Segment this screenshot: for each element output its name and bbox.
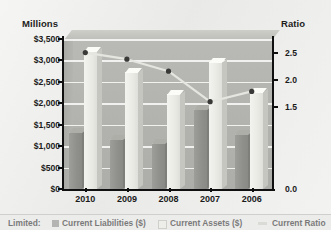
bar-side-facet	[97, 48, 102, 189]
left-tick-label: $2,500	[34, 77, 60, 87]
bar-face	[235, 134, 248, 189]
legend-label-liabilities: Current Liabilities ($)	[62, 218, 146, 228]
bar-face	[110, 139, 123, 189]
right-tick-label: 2.0	[285, 75, 297, 85]
left-axis-line	[62, 36, 64, 191]
x-tick-mark	[210, 188, 212, 192]
bar-current-assets	[84, 52, 97, 189]
right-tick-mark	[274, 52, 278, 54]
legend-swatch-ratio	[258, 222, 267, 225]
legend-label-assets: Current Assets ($)	[170, 218, 242, 228]
left-tick-mark	[58, 81, 62, 83]
x-axis-label: 2010	[65, 194, 105, 204]
right-axis-title: Ratio	[281, 18, 305, 29]
legend-swatch-liabilities	[52, 220, 59, 227]
bar-face	[209, 62, 222, 189]
left-tick-mark	[58, 145, 62, 147]
x-axis-label: 2007	[190, 194, 230, 204]
legend-swatch-assets	[158, 220, 167, 229]
bar-current-liabilities	[194, 110, 207, 189]
right-tick-label-zero: 0.0	[285, 184, 297, 194]
left-tick-mark	[58, 188, 62, 190]
x-axis-label: 2006	[232, 194, 272, 204]
right-tick-mark	[274, 79, 278, 81]
left-tick-mark	[58, 124, 62, 126]
x-axis-label: 2008	[149, 194, 189, 204]
bar-face	[125, 72, 138, 189]
left-tick-mark	[58, 102, 62, 104]
bar-current-assets	[250, 93, 263, 189]
left-tick-label: $3,000	[34, 55, 60, 65]
bar-side-facet	[222, 59, 227, 189]
x-tick-mark	[169, 188, 171, 192]
bar-face	[194, 109, 207, 189]
x-axis-label: 2009	[107, 194, 147, 204]
left-tick-mark	[58, 167, 62, 169]
x-tick-mark	[252, 188, 254, 192]
bar-current-assets	[167, 95, 180, 189]
right-tick-label: 2.5	[285, 48, 297, 58]
right-tick-mark	[274, 106, 278, 108]
plot-area	[64, 39, 272, 189]
right-tick-label: 1.5	[285, 102, 297, 112]
left-tick-label: $3,500	[34, 34, 60, 44]
bar-current-assets	[209, 63, 222, 189]
bar-current-liabilities	[110, 140, 123, 189]
right-axis-line	[272, 36, 274, 191]
bar-face	[152, 143, 165, 189]
legend-label-ratio: Current Ratio	[272, 218, 326, 228]
bar-face	[167, 94, 180, 189]
left-tick-label: $1,500	[34, 120, 60, 130]
x-tick-mark	[85, 188, 87, 192]
bar-face	[84, 51, 97, 189]
chart-legend: Limited: Current Liabilities ($) Current…	[0, 214, 331, 230]
bar-side-facet	[180, 91, 185, 189]
bar-current-assets	[125, 73, 138, 189]
bar-current-liabilities	[235, 135, 248, 189]
x-tick-mark	[127, 188, 129, 192]
combo-chart: Millions Ratio $0$500$1,000$1,500$2,000$…	[0, 0, 331, 230]
left-axis-title: Millions	[22, 18, 58, 29]
gridline	[64, 39, 272, 41]
bar-side-facet	[263, 89, 268, 189]
bar-face	[69, 132, 82, 189]
left-tick-mark	[58, 38, 62, 40]
left-tick-label: $1,000	[34, 141, 60, 151]
bar-face	[250, 92, 263, 189]
bar-current-liabilities	[69, 133, 82, 189]
bar-side-facet	[138, 69, 143, 189]
legend-prefix-label: Limited:	[8, 218, 41, 228]
left-tick-mark	[58, 59, 62, 61]
left-tick-label: $2,000	[34, 98, 60, 108]
bar-current-liabilities	[152, 144, 165, 189]
